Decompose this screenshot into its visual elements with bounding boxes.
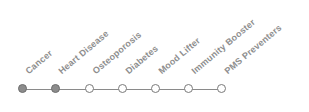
step-label-cancer[interactable]: Cancer xyxy=(24,48,55,76)
step-dot-mood-lifter[interactable] xyxy=(151,84,160,93)
step-dot-heart-disease[interactable] xyxy=(51,84,60,93)
step-dot-immunity-booster[interactable] xyxy=(184,84,193,93)
step-dot-pms-preventers[interactable] xyxy=(217,84,226,93)
step-label-pms-preventers[interactable]: PMS Preventers xyxy=(223,22,284,76)
step-timeline: Cancer Heart Disease Osteoporosis Diabet… xyxy=(0,0,309,112)
step-dot-cancer[interactable] xyxy=(18,84,27,93)
step-dot-diabetes[interactable] xyxy=(118,84,127,93)
step-dot-osteoporosis[interactable] xyxy=(85,84,94,93)
